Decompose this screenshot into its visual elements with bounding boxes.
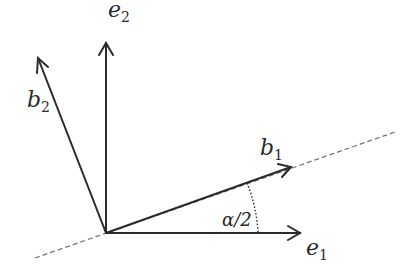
label-e1: e1 <box>306 235 328 263</box>
label-b2: b2 <box>27 87 50 115</box>
label-b1: b1 <box>260 135 283 163</box>
angle-label: α/2 <box>222 209 252 230</box>
vector-e1 <box>106 226 300 240</box>
vector-b1 <box>106 164 291 233</box>
vector-e2 <box>99 43 113 233</box>
vector-b2 <box>37 58 106 233</box>
label-e2: e2 <box>108 0 130 25</box>
vector-diagram: e2 b2 b1 e1 α/2 <box>0 0 415 277</box>
